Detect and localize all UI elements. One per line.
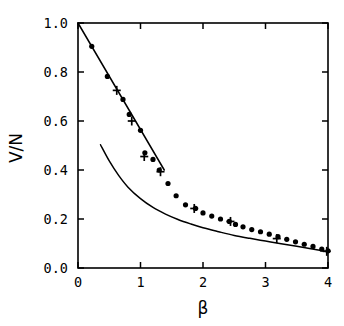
data-point-circle (127, 112, 132, 117)
figure-container: 01234 0.00.20.40.60.81.0 β V/N (0, 0, 344, 326)
data-point-plus (190, 204, 198, 213)
data-point-circle (302, 242, 307, 247)
data-point-circle (293, 239, 298, 244)
data-point-circle (209, 213, 214, 218)
data-point-circle (233, 222, 238, 227)
data-point-circle (150, 157, 155, 162)
data-point-circle (138, 128, 143, 133)
y-axis-label: V/N (6, 133, 26, 163)
data-point-circle (165, 181, 170, 186)
x-axis-label: β (198, 298, 209, 318)
y-tick-label: 0.4 (44, 162, 68, 178)
x-tick-label: 0 (74, 274, 82, 290)
y-tick-label: 0.0 (44, 260, 68, 276)
y-tick-label: 1.0 (44, 15, 68, 31)
y-tick-labels: 0.00.20.40.60.81.0 (44, 15, 68, 276)
curve-lower-decay-curve (101, 145, 329, 252)
data-point-plus (128, 117, 136, 126)
y-tick-label: 0.8 (44, 64, 68, 80)
data-point-circle (310, 244, 315, 249)
data-markers (89, 44, 331, 256)
data-point-circle (174, 193, 179, 198)
scatter-plot: 01234 0.00.20.40.60.81.0 β V/N (0, 0, 344, 326)
data-point-circle (120, 97, 125, 102)
x-tick-label: 2 (199, 274, 207, 290)
data-point-circle (249, 227, 254, 232)
data-point-circle (200, 210, 205, 215)
data-point-circle (218, 216, 223, 221)
x-tick-labels: 01234 (74, 274, 332, 290)
data-point-circle (267, 232, 272, 237)
data-point-circle (240, 224, 245, 229)
x-tick-label: 4 (324, 274, 332, 290)
data-point-circle (89, 44, 94, 49)
data-curves (78, 23, 328, 252)
data-point-circle (183, 202, 188, 207)
data-point-circle (105, 74, 110, 79)
y-tick-label: 0.6 (44, 113, 68, 129)
data-point-circle (258, 229, 263, 234)
plot-frame (78, 23, 328, 268)
y-tick-label: 0.2 (44, 211, 68, 227)
x-tick-label: 3 (261, 274, 269, 290)
x-tick-label: 1 (136, 274, 144, 290)
data-point-circle (284, 237, 289, 242)
axis-ticks (78, 23, 328, 268)
